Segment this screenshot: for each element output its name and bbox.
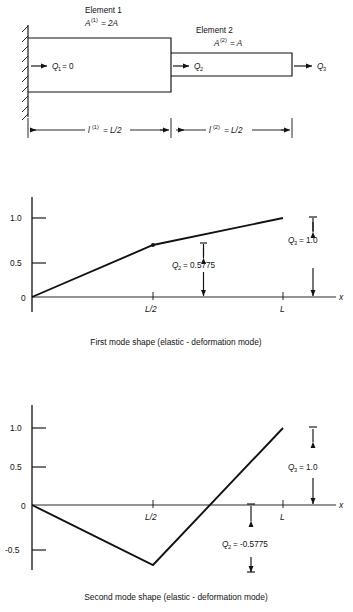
q2-force-arrow: Q 2 <box>173 62 203 72</box>
svg-text:2: 2 <box>178 265 181 271</box>
svg-text:= A: = A <box>230 39 243 48</box>
dimension-element-1: l (1) = L/2 <box>33 124 169 135</box>
element-2-area-label: A (2) = A <box>213 37 243 48</box>
svg-text:= L/2: = L/2 <box>103 126 122 135</box>
chart-second-mode-shape: 1.0 0.5 0 -0.5 L/2 L x Q 2 = -0.5775 <box>5 405 344 602</box>
chart1-x-axis-label: x <box>338 292 344 302</box>
element-1-label: Element 1 <box>85 6 122 15</box>
chart2-xtick-full: L <box>280 512 285 522</box>
chart1-q2-annotation: Q 2 = 0.5775 <box>172 243 216 296</box>
svg-text:= 0: = 0 <box>62 62 74 71</box>
chart1-caption: First mode shape (elastic - deformation … <box>90 337 262 347</box>
chart2-y-ticks <box>32 428 46 550</box>
element-2-label: Element 2 <box>196 26 233 35</box>
q3-force-arrow: Q 3 <box>294 62 326 72</box>
svg-text:1: 1 <box>58 66 61 72</box>
svg-text:= -0.5775: = -0.5775 <box>233 540 268 549</box>
svg-text:2: 2 <box>200 66 203 72</box>
element-2-body <box>171 53 292 76</box>
dimension-extension-lines <box>28 118 292 138</box>
svg-text:l: l <box>209 126 211 135</box>
dimension-element-2: l (2) = L/2 <box>176 124 290 135</box>
svg-text:2: 2 <box>228 544 231 550</box>
chart1-ytick-05: 0.5 <box>10 258 22 268</box>
svg-text:A: A <box>84 19 91 28</box>
mode-shape-figure: Element 1 A (1) = 2A Element 2 A (2) = A… <box>0 0 353 612</box>
svg-text:A: A <box>213 39 220 48</box>
chart1-q3-annotation: Q 3 = 1.0 <box>288 217 318 296</box>
chart1-node-point <box>151 243 155 247</box>
chart1-ytick-1: 1.0 <box>10 213 22 223</box>
chart2-ytick-neg05: -0.5 <box>5 545 20 555</box>
chart1-xtick-half: L/2 <box>145 304 157 314</box>
q1-force-arrow: Q 1 = 0 <box>31 62 74 72</box>
chart2-q2-annotation: Q 2 = -0.5775 <box>222 504 268 572</box>
svg-text:3: 3 <box>294 467 297 473</box>
chart1-xtick-full: L <box>280 304 285 314</box>
svg-text:= 1.0: = 1.0 <box>299 463 318 472</box>
chart2-caption: Second mode shape (elastic - deformation… <box>84 592 268 602</box>
chart1-mode-curve <box>32 218 283 297</box>
element-1-area-label: A (1) = 2A <box>84 17 119 28</box>
fixed-support-wall <box>22 25 28 120</box>
svg-text:(1): (1) <box>91 17 98 23</box>
chart2-xtick-half: L/2 <box>145 512 157 522</box>
chart2-ytick-0: 0 <box>21 501 26 511</box>
svg-text:(1): (1) <box>92 124 99 130</box>
chart2-x-ticks <box>153 500 283 508</box>
chart-first-mode-shape: 1.0 0.5 0 L/2 L x Q 2 = 0.5775 <box>10 197 344 347</box>
chart1-ytick-0: 0 <box>21 293 26 303</box>
chart2-ytick-1: 1.0 <box>10 423 22 433</box>
svg-text:3: 3 <box>294 240 297 246</box>
svg-text:= 1.0: = 1.0 <box>299 236 318 245</box>
svg-text:(2): (2) <box>220 37 227 43</box>
svg-text:(2): (2) <box>213 124 220 130</box>
element-1-body <box>28 38 171 92</box>
svg-text:= 2A: = 2A <box>101 19 119 28</box>
bar-diagram: Element 1 A (1) = 2A Element 2 A (2) = A… <box>22 6 326 138</box>
svg-text:3: 3 <box>323 66 326 72</box>
chart1-y-ticks <box>32 218 46 263</box>
chart1-x-ticks <box>153 292 283 300</box>
chart2-q3-annotation: Q 3 = 1.0 <box>288 427 318 504</box>
chart2-x-axis-label: x <box>338 500 344 510</box>
chart2-ytick-05: 0.5 <box>10 462 22 472</box>
svg-text:l: l <box>88 126 90 135</box>
svg-text:= L/2: = L/2 <box>224 126 243 135</box>
svg-text:= 0.5775: = 0.5775 <box>183 261 216 270</box>
